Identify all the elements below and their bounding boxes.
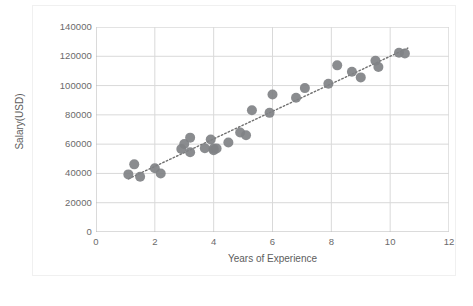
- y-tick-label: 60000: [32, 138, 92, 149]
- x-axis-title: Years of Experience: [96, 253, 449, 264]
- y-tick-label: 40000: [32, 167, 92, 178]
- y-tick-label: 20000: [32, 197, 92, 208]
- figure-container: 020000400006000080000100000120000140000 …: [0, 0, 473, 306]
- y-tick-label: 140000: [32, 21, 92, 32]
- y-axis-tick-labels: 020000400006000080000100000120000140000: [28, 27, 92, 232]
- y-axis-title: Salary(USD): [14, 62, 25, 182]
- x-tick-label: 12: [429, 236, 469, 247]
- x-tick-label: 4: [194, 236, 234, 247]
- y-tick-label: 80000: [32, 109, 92, 120]
- plot-area: [96, 27, 449, 232]
- y-tick-label: 100000: [32, 80, 92, 91]
- y-tick-label: 120000: [32, 50, 92, 61]
- x-tick-label: 6: [253, 236, 293, 247]
- x-tick-label: 2: [135, 236, 175, 247]
- gridlines: [96, 27, 449, 232]
- figure-caption: [6, 292, 466, 305]
- x-tick-label: 10: [370, 236, 410, 247]
- x-tick-label: 8: [311, 236, 351, 247]
- scatter-plot-svg: [96, 27, 449, 232]
- x-axis-tick-labels: 024681012: [96, 236, 449, 252]
- x-tick-label: 0: [76, 236, 116, 247]
